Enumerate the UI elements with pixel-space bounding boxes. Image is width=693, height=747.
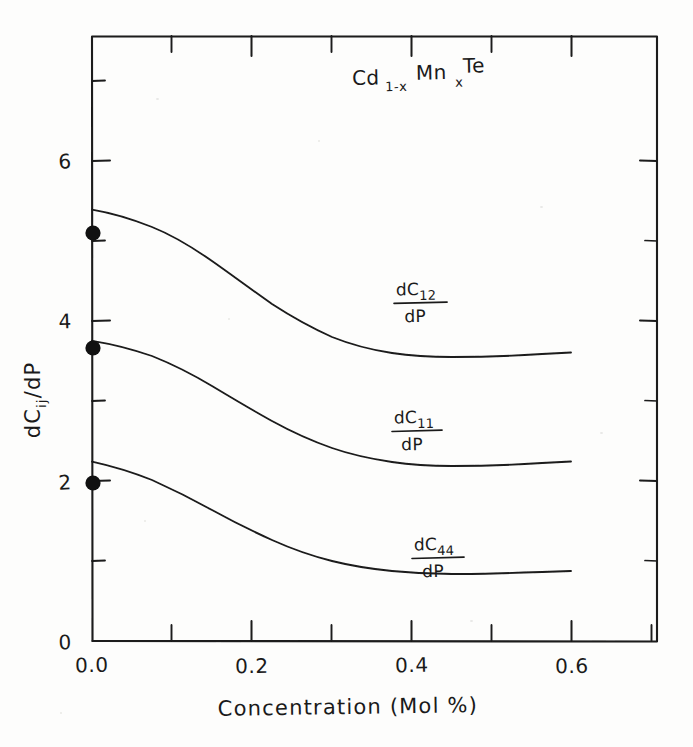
- formula-dopant: Mn: [416, 60, 447, 85]
- y-tick-label-2: 2: [58, 470, 72, 495]
- svg-text:dC12: dC12: [396, 279, 437, 304]
- curve-label-dc12-fraction-bar: [394, 302, 447, 303]
- curve-label-dc12-denominator: dP: [404, 306, 426, 326]
- y-axis-title-sub: ij: [34, 398, 49, 408]
- svg-text:Concentration (Mol %): Concentration (Mol %): [218, 693, 479, 721]
- curve-label-dc11-sub: 11: [417, 416, 434, 431]
- y-tick-labels: 6 4 2 0: [58, 149, 72, 654]
- curve-dc12-dp: [92, 210, 571, 357]
- curve-label-dc11-numerator: dC: [394, 407, 418, 427]
- plot-frame: [92, 37, 657, 642]
- svg-text:dCij/dP: dCij/dP: [21, 362, 49, 439]
- x-axis-ticks-top: [172, 36, 572, 56]
- formula-base-subscript: 1-x: [385, 79, 407, 94]
- curve-dc11-dp: [92, 341, 571, 466]
- chart-svg: 6 4 2 0 0.0 0.2 0.4 0.6 Concentration (M…: [0, 0, 693, 747]
- x-tick-label-3: 0.6: [555, 654, 589, 679]
- figure-canvas: 6 4 2 0 0.0 0.2 0.4 0.6 Concentration (M…: [0, 0, 693, 747]
- data-point-marker: [85, 225, 100, 240]
- x-tick-label-0: 0.0: [75, 653, 109, 678]
- x-tick-label-1: 0.2: [235, 654, 269, 679]
- curve-label-dc12: dC12 dP: [394, 279, 448, 327]
- data-point-marker: [85, 475, 100, 490]
- data-point-marker: [85, 340, 100, 355]
- curve-label-dc44-fraction-bar: [412, 557, 464, 558]
- svg-text:dC44: dC44: [414, 534, 455, 559]
- x-tick-label-2: 0.4: [395, 653, 429, 678]
- y-axis-title: dCij/dP: [21, 362, 49, 439]
- y-axis-title-denominator: dP: [21, 362, 45, 390]
- x-tick-labels: 0.0 0.2 0.4 0.6: [75, 653, 589, 679]
- curve-label-dc12-sub: 12: [419, 288, 436, 303]
- y-axis-ticks-right: [640, 161, 657, 562]
- y-tick-label-6: 6: [58, 149, 72, 174]
- curve-dc44-dp: [92, 462, 571, 574]
- x-axis-ticks: [172, 621, 652, 641]
- x-axis-title: Concentration (Mol %): [218, 693, 479, 721]
- material-formula: Cd 1-x Mn x Te: [352, 53, 486, 95]
- svg-text:dC11: dC11: [394, 407, 435, 432]
- curve-label-dc44-denominator: dP: [422, 561, 444, 581]
- curve-label-dc12-numerator: dC: [396, 279, 420, 299]
- y-axis-title-slash: /: [21, 390, 45, 398]
- curve-label-dc11-denominator: dP: [401, 434, 423, 454]
- curve-label-dc11: dC11 dP: [392, 407, 443, 455]
- y-axis-title-numerator: dC: [21, 408, 45, 438]
- formula-anion: Te: [462, 53, 486, 77]
- curve-label-dc44-sub: 44: [437, 543, 454, 558]
- formula-base: Cd: [352, 65, 380, 90]
- curve-label-dc11-fraction-bar: [392, 430, 442, 431]
- y-tick-label-0: 0: [58, 630, 72, 654]
- curve-label-dc44-numerator: dC: [414, 534, 438, 554]
- y-tick-label-4: 4: [58, 309, 72, 333]
